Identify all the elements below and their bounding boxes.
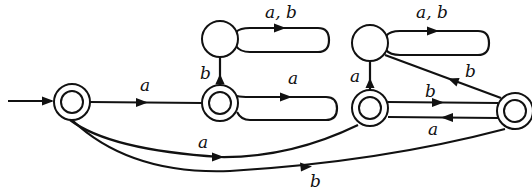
loop-label-q1: a [288,68,298,88]
start-arrow [8,97,54,106]
state-d1-dead [202,21,238,57]
edge-q0-q2: a [70,120,358,162]
edge-q3-d2: b [385,55,501,98]
edge-label-q0-q3: b [310,171,321,191]
edge-q0-q3: b [72,120,505,191]
edge-q2-d2: a [350,61,375,90]
edge-label-q2-d2: a [350,66,360,86]
loop-label-d1: a, b [265,2,297,22]
state-q3-accepting [497,93,532,129]
edge-label-q0-q1: a [140,75,150,95]
edge-q0-q1: a [90,75,202,107]
state-d2-dead [352,25,388,61]
edge-q2-q3: b [388,81,498,107]
edge-label-q3-q2: a [428,119,438,139]
loop-q1: a [237,68,337,120]
edge-label-q0-q2: a [198,132,208,152]
state-q1-accepting [202,85,238,121]
automaton-diagram: a b a, b a a a, b b b [0,0,532,194]
edge-q1-d1: b [200,57,225,85]
edge-label-q1-d1: b [200,63,211,83]
state-q0-initial-accepting [54,84,90,120]
edge-label-q3-d2: b [465,61,476,81]
loop-label-d2: a, b [416,2,448,22]
loop-d2: a, b [386,2,489,55]
state-q2-accepting [352,90,388,126]
loop-d1: a, b [236,2,329,52]
edge-label-q2-q3: b [425,81,436,101]
